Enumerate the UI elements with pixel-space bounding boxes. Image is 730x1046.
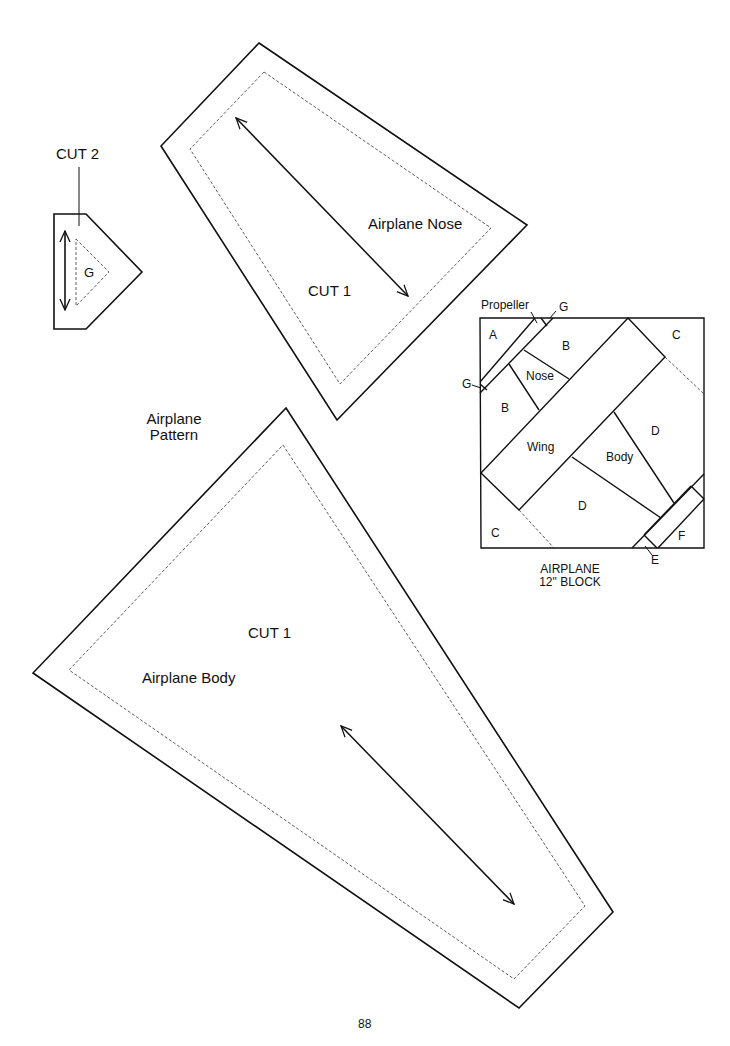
g-piece <box>54 167 142 329</box>
block-label-b-top: B <box>562 340 570 352</box>
block-c-top-seam <box>665 357 704 394</box>
pattern-title-line2: Pattern <box>140 427 208 442</box>
body-piece-seam-line <box>69 445 585 979</box>
g-piece-cut-label: CUT 2 <box>56 146 99 161</box>
nose-piece <box>161 43 527 420</box>
nose-piece-name-label: Airplane Nose <box>368 216 462 231</box>
nose-grain-arrow-icon <box>236 118 408 296</box>
block-label-f: F <box>678 530 685 542</box>
nose-piece-outline <box>161 43 527 420</box>
body-piece <box>33 408 613 1008</box>
block-label-nose: Nose <box>526 370 554 382</box>
block-ef-top-divider <box>691 486 704 499</box>
nose-piece-cut-label: CUT 1 <box>308 283 351 298</box>
airplane-block-diagram <box>472 311 704 555</box>
block-label-propeller: Propeller <box>481 299 529 311</box>
block-e-divider <box>644 535 657 548</box>
block-caption-line2: 12" BLOCK <box>528 576 612 588</box>
g-piece-label: G <box>84 266 94 279</box>
block-label-c-bottom: C <box>491 527 500 539</box>
page-number: 88 <box>358 1018 371 1030</box>
block-label-g-top: G <box>559 301 568 313</box>
block-g-top-leader <box>550 311 556 318</box>
block-label-g-left: G <box>462 378 471 390</box>
pattern-title: Airplane Pattern <box>140 411 208 442</box>
block-label-body: Body <box>606 451 633 463</box>
body-piece-name-label: Airplane Body <box>142 670 235 685</box>
block-label-d-bottom: D <box>578 500 587 512</box>
block-label-wing: Wing <box>527 441 554 453</box>
block-c-bottom-seam <box>519 510 554 548</box>
pattern-page: CUT 2 G Airplane Nose CUT 1 Airplane Pat… <box>0 0 730 1046</box>
g-piece-outline <box>54 214 142 329</box>
block-label-c-top: C <box>672 329 681 341</box>
block-g-top-divider <box>541 318 547 326</box>
block-label-b-left: B <box>501 402 509 414</box>
block-caption-line1: AIRPLANE <box>528 563 612 575</box>
body-piece-outline <box>33 408 613 1008</box>
pattern-drawing <box>0 0 730 1046</box>
block-caption: AIRPLANE 12" BLOCK <box>528 563 612 588</box>
block-label-a: A <box>489 329 497 341</box>
block-label-d-right: D <box>651 425 660 437</box>
pattern-title-line1: Airplane <box>140 411 208 426</box>
body-piece-cut-label: CUT 1 <box>248 625 291 640</box>
block-label-e: E <box>651 554 659 566</box>
